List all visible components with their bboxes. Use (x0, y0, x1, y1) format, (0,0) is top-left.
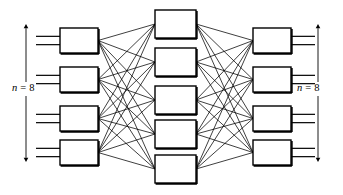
connection-line (98, 24, 155, 153)
connection-line (196, 100, 253, 119)
network-graphic (0, 0, 343, 195)
layer-box-body (155, 48, 196, 76)
layer-boxes-group (60, 10, 292, 184)
layer-box-body (253, 140, 291, 165)
right-span-label-value: 8 (314, 82, 319, 93)
layer-box-body (155, 155, 196, 183)
layer-box-body (155, 86, 196, 114)
left-span-arrow-up-head (24, 24, 29, 28)
connection-line (98, 62, 155, 153)
layer-box-body (60, 67, 98, 92)
left-span-label-value: 8 (29, 82, 34, 93)
layer-box (155, 86, 197, 115)
layer-box (155, 120, 197, 149)
layer-box-body (60, 106, 98, 131)
layer-box (253, 67, 292, 93)
layer-box-body (155, 10, 196, 38)
left-span-arrow-down-head (24, 158, 29, 162)
layer-box (155, 48, 197, 77)
layer-box-body (60, 28, 98, 53)
connection-line (98, 80, 155, 170)
layer-box (253, 140, 292, 166)
layer-box (60, 67, 99, 93)
layer-box (253, 28, 292, 54)
connection-line (196, 80, 253, 101)
right-span-arrow-up-head (316, 24, 321, 28)
connection-line (196, 80, 253, 170)
layer-box (155, 155, 197, 184)
layer-box (60, 28, 99, 54)
layer-box-body (253, 28, 291, 53)
layer-box (60, 140, 99, 166)
connection-line (98, 100, 155, 119)
layer-box-body (253, 106, 291, 131)
connection-line (196, 24, 253, 153)
layer-box (253, 106, 292, 132)
right-span-arrow-down-head (316, 158, 321, 162)
layer-box (155, 10, 197, 39)
neural-network-diagram: n = 8 n = 8 (0, 0, 343, 195)
layer-box-body (60, 140, 98, 165)
left-span-label: n = 8 (12, 83, 35, 94)
right-span-label: n = 8 (297, 83, 320, 94)
layer-box (60, 106, 99, 132)
layer-box-body (253, 67, 291, 92)
layer-box-body (155, 120, 196, 148)
